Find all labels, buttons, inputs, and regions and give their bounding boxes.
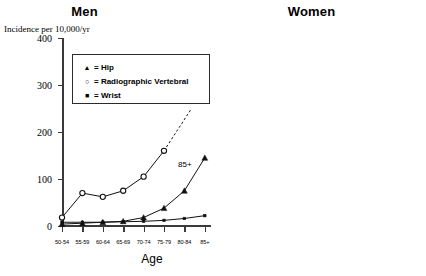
legend-item-radiographic-vertebral: ○ = Radiographic Vertebral xyxy=(81,74,209,88)
legend-item-wrist: ■ = Wrist xyxy=(81,88,209,102)
square-icon: ■ xyxy=(81,92,93,99)
legend-label-hip: = Hip xyxy=(94,63,114,72)
x-axis-title-men: Age xyxy=(92,252,212,266)
panel-title-men: Men xyxy=(0,4,191,19)
chart-panel-men: Men Incidence per 10,000/yr 0 100 200 30… xyxy=(0,0,213,276)
annotation-85plus-men: 85+ xyxy=(178,160,192,169)
chart-panel-women: Women 0 100 200 300 400 50-54 55-59 60-6… xyxy=(213,0,426,276)
triangle-icon: ▲ xyxy=(81,64,93,71)
legend-item-hip: ▲ = Hip xyxy=(81,60,209,74)
open-circle-icon: ○ xyxy=(81,78,93,85)
legend-label-wrist: = Wrist xyxy=(94,91,121,100)
chart-legend: ▲ = Hip ○ = Radiographic Vertebral ■ = W… xyxy=(72,54,210,104)
panel-title-women: Women xyxy=(205,4,418,19)
legend-label-radiographic-vertebral: = Radiographic Vertebral xyxy=(94,77,188,86)
